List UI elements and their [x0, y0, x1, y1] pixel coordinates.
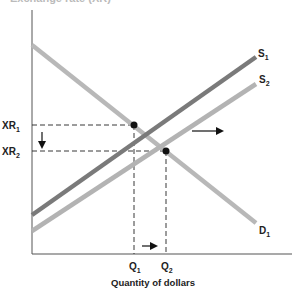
xr2-label: XR2 [2, 146, 20, 159]
supply-curve-s2 [32, 84, 256, 231]
d1-label: D1 [259, 225, 270, 238]
equilibrium-point-1 [131, 122, 138, 129]
exchange-market-diagram: S1 S2 D1 XR1 XR2 Q1 Q2 Quantity of dolla… [0, 0, 292, 292]
supply-curve-s1 [32, 57, 256, 215]
equilibrium-point-2 [163, 148, 170, 155]
x-axis-title: Quantity of dollars [111, 277, 195, 288]
q1-label: Q1 [129, 261, 141, 274]
q2-label: Q2 [161, 261, 173, 274]
xr1-label: XR1 [2, 120, 20, 133]
s2-label: S2 [259, 74, 270, 87]
s1-label: S1 [258, 48, 269, 61]
